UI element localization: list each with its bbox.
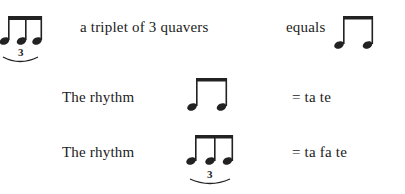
rhythm-result-row2: = ta te [292,89,331,106]
rhythm-result-row3: = ta fa te [292,144,347,161]
svg-text:3: 3 [207,168,213,180]
triplet-quavers-notation-row1: 3 [0,12,48,64]
svg-text:3: 3 [18,46,24,58]
two-quavers-icon [330,14,378,50]
two-quavers-notation-row2 [184,76,232,112]
triplet-description: a triplet of 3 quavers [80,19,209,36]
rhythm-label-row2: The rhythm [62,89,134,106]
two-quavers-notation-row1 [330,14,378,50]
triplet-quavers-notation-row3: 3 [184,133,240,187]
two-quavers-icon [184,76,232,112]
equals-label: equals [286,19,326,36]
rhythm-label-row3: The rhythm [62,144,134,161]
triplet-quavers-icon: 3 [0,12,48,64]
triplet-quavers-icon: 3 [184,133,240,187]
